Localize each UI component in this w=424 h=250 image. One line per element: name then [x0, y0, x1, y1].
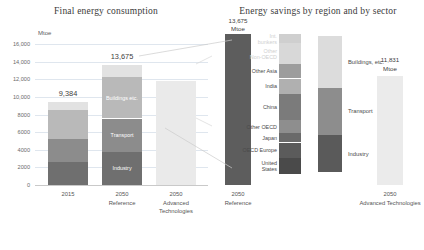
- right-sector-segment: [318, 88, 342, 135]
- left-bar-total-label: 9,384: [59, 89, 78, 98]
- left-bar-segment: [102, 65, 142, 78]
- left-y-tick: 14,000: [0, 59, 30, 65]
- left-chart-panel: 16,00014,00012,00010,0008000600040002000…: [0, 0, 212, 250]
- right-sector-segment: [318, 135, 342, 172]
- left-bar-segment: [102, 77, 142, 118]
- right-region-label: India: [265, 83, 277, 89]
- left-axis-line: [35, 185, 208, 186]
- right-region-label: UnitedStates: [261, 160, 277, 172]
- right-chart-panel: 13,675Mtoe2050ReferenceInt.bunkersOtherN…: [212, 0, 424, 250]
- left-y-tick: 0: [0, 182, 30, 188]
- left-bar-segment: [48, 162, 88, 185]
- right-sector-label: Buildings, etc.: [348, 59, 384, 65]
- left-gridline: [35, 44, 208, 45]
- left-bar-segment: [48, 139, 88, 162]
- right-category-label-reference: 2050Reference: [225, 190, 252, 207]
- left-category-label: 2015: [62, 190, 75, 199]
- right-region-label: Other OECD: [246, 123, 277, 129]
- right-region-label: OECD Europe: [243, 147, 277, 153]
- right-region-segment: [279, 143, 301, 158]
- right-region-segment: [279, 34, 301, 43]
- right-region-segment: [279, 79, 301, 94]
- right-region-label: Japan: [262, 135, 277, 141]
- left-category-label: 2050AdvancedTechnologies: [159, 190, 193, 216]
- chart-canvas: Final energy consumption Energy savings …: [0, 0, 424, 250]
- left-y-tick: 16,000: [0, 41, 30, 47]
- right-region-segment: [279, 64, 301, 78]
- left-y-tick: 12,000: [0, 76, 30, 82]
- left-bar-total-label: 13,675: [111, 52, 134, 61]
- right-start-value-label: 13,675Mtoe: [229, 17, 248, 34]
- right-sector-label: Transport: [348, 108, 373, 114]
- left-bar-advanced: [156, 81, 196, 185]
- right-region-segment: [279, 133, 301, 142]
- left-gridline: [35, 62, 208, 63]
- right-advanced-bar: [377, 76, 403, 185]
- right-region-label: China: [263, 104, 277, 110]
- right-region-label: Int.bunkers: [258, 32, 277, 44]
- left-bar-segment: [48, 102, 88, 109]
- right-region-segment: [279, 94, 301, 120]
- right-region-segment: [279, 158, 301, 175]
- left-y-tick: 4000: [0, 147, 30, 153]
- right-reference-bar: [225, 34, 251, 185]
- right-sector-label: Industry: [348, 151, 369, 157]
- left-bar-segment: [102, 152, 142, 186]
- left-unit-label: Mtoe: [38, 30, 51, 36]
- right-sector-segment: [318, 36, 342, 88]
- left-y-tick: 2000: [0, 164, 30, 170]
- right-region-segment: [279, 120, 301, 133]
- right-end-value-label: 11,831Mtoe: [381, 56, 399, 73]
- right-region-label: Other Asia: [252, 68, 277, 74]
- right-category-label-advanced: 2050Advanced Technologies: [359, 190, 420, 207]
- left-y-tick: 10,000: [0, 94, 30, 100]
- left-category-label: 2050Reference: [109, 190, 136, 207]
- left-y-tick: 8000: [0, 112, 30, 118]
- left-y-tick: 6000: [0, 129, 30, 135]
- left-bar-segment: [102, 119, 142, 152]
- right-region-segment: [279, 43, 301, 64]
- right-region-label: OtherNon-OECD: [250, 48, 277, 60]
- left-bar-segment: [48, 110, 88, 139]
